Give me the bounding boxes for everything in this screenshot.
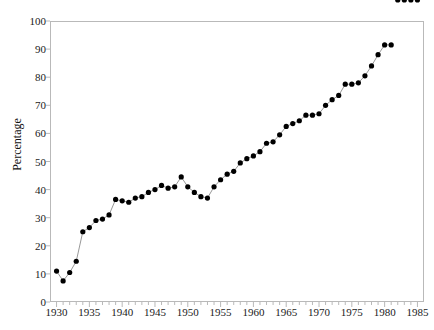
x-tick-label: 1930: [46, 307, 68, 318]
y-tick-label: 60: [2, 128, 46, 139]
y-tick-label: 80: [2, 72, 46, 83]
x-tick-label: 1950: [177, 307, 199, 318]
y-tick-label: 20: [2, 240, 46, 251]
y-tick-label: 70: [2, 100, 46, 111]
x-axis-tick-labels: 1930193519401945195019551960196519701975…: [0, 307, 434, 327]
y-axis-tick-labels: 0102030405060708090100: [0, 0, 46, 330]
data-point: [402, 0, 407, 3]
y-tick-label: 0: [2, 297, 46, 308]
x-tick-label: 1935: [78, 307, 100, 318]
data-point: [408, 0, 413, 3]
y-tick-label: 40: [2, 184, 46, 195]
y-tick-label: 100: [2, 16, 46, 27]
x-tick-label: 1975: [341, 307, 363, 318]
y-tick-label: 10: [2, 268, 46, 279]
data-point: [415, 0, 420, 3]
x-tick-label: 1945: [144, 307, 166, 318]
y-tick-label: 50: [2, 156, 46, 167]
data-point: [395, 0, 400, 3]
x-tick-label: 1985: [406, 307, 428, 318]
plot-frame: [50, 21, 424, 302]
y-tick-label: 90: [2, 44, 46, 55]
x-tick-label: 1940: [111, 307, 133, 318]
y-tick-label: 30: [2, 212, 46, 223]
x-axis-minor-ticks: [63, 302, 411, 305]
x-tick-label: 1960: [242, 307, 264, 318]
x-tick-label: 1955: [210, 307, 232, 318]
x-tick-label: 1965: [275, 307, 297, 318]
chart-page: Percentage 0102030405060708090100 193019…: [0, 0, 434, 330]
x-tick-label: 1970: [308, 307, 330, 318]
x-tick-label: 1980: [374, 307, 396, 318]
